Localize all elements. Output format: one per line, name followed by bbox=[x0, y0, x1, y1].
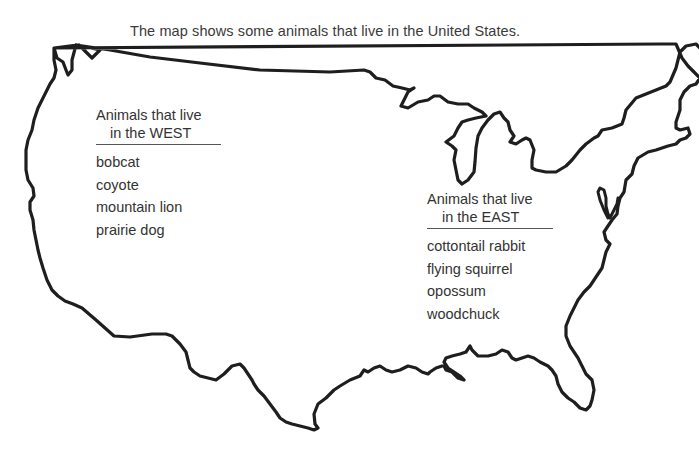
east-heading: Animals that live in the EAST bbox=[427, 190, 553, 229]
west-heading-line2: in the WEST bbox=[96, 124, 221, 142]
west-animal-item: mountain lion bbox=[96, 196, 221, 219]
east-animal-item: woodchuck bbox=[427, 303, 553, 326]
east-animal-item: opossum bbox=[427, 280, 553, 303]
west-heading: Animals that live in the WEST bbox=[96, 106, 221, 145]
map-title: The map shows some animals that live in … bbox=[130, 23, 520, 39]
west-animal-item: coyote bbox=[96, 174, 221, 197]
east-heading-line2: in the EAST bbox=[427, 208, 553, 226]
east-animal-item: flying squirrel bbox=[427, 258, 553, 281]
west-animals-list: Animals that live in the WEST bobcat coy… bbox=[96, 106, 221, 241]
east-animals-list: Animals that live in the EAST cottontail… bbox=[427, 190, 553, 325]
chesapeake-bay bbox=[598, 188, 618, 218]
west-animal-item: prairie dog bbox=[96, 219, 221, 242]
west-animal-item: bobcat bbox=[96, 151, 221, 174]
east-animal-item: cottontail rabbit bbox=[427, 235, 553, 258]
west-heading-line1: Animals that live bbox=[96, 106, 221, 124]
east-heading-line1: Animals that live bbox=[427, 190, 553, 208]
